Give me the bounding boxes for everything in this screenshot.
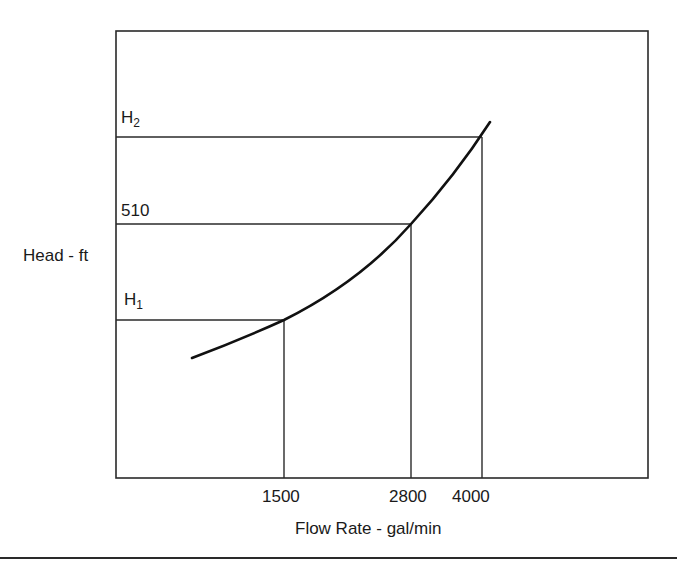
h2-label: H2 [121,109,140,129]
head-510-label: 510 [121,202,149,219]
x-axis-label: Flow Rate - gal/min [295,520,441,537]
x-tick-4000: 4000 [452,488,490,505]
y-axis-label: Head - ft [23,247,88,264]
x-tick-2800: 2800 [389,488,427,505]
h1-label: H1 [124,291,143,311]
x-tick-1500: 1500 [262,488,300,505]
chart-canvas [0,0,677,570]
head-curve [192,122,490,358]
